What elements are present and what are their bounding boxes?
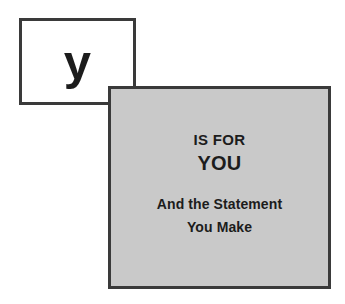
statement-line-is-for: IS FOR <box>111 132 328 147</box>
slide-canvas: y IS FOR YOU And the Statement You Make <box>0 0 345 304</box>
statement-panel: IS FOR YOU And the Statement You Make <box>108 86 331 289</box>
statement-subline-1: And the Statement <box>111 197 328 211</box>
letter-glyph-y: y <box>22 37 133 86</box>
statement-panel-content: IS FOR YOU And the Statement You Make <box>111 89 328 286</box>
statement-line-subject: YOU <box>111 153 328 173</box>
statement-subline-2: You Make <box>111 220 328 234</box>
